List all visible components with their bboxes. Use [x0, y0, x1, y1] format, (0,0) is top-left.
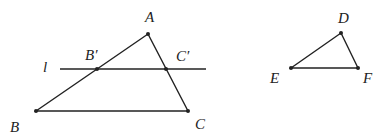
point-a: [146, 32, 150, 36]
label-c-prime: C′: [176, 49, 189, 64]
point-c: [186, 109, 190, 113]
label-f: F: [363, 71, 372, 86]
point-b: [34, 109, 38, 113]
point-f: [356, 66, 360, 70]
point-b-prime: [95, 67, 99, 71]
label-a: A: [145, 10, 154, 25]
triangle-abc: [36, 34, 188, 111]
label-d: D: [338, 11, 349, 26]
point-c-prime: [164, 67, 168, 71]
label-b: B: [10, 120, 19, 135]
point-d: [339, 31, 343, 35]
label-line-l: l: [43, 60, 47, 75]
label-e: E: [270, 71, 279, 86]
triangle-def: [291, 33, 358, 68]
label-b-prime: B′: [85, 48, 97, 63]
point-e: [289, 66, 293, 70]
label-c: C: [195, 117, 205, 132]
